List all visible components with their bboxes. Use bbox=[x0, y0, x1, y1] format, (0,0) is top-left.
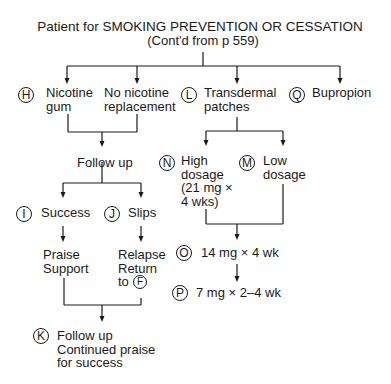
marker-l: L bbox=[181, 87, 197, 103]
node-high-dosage: High dosage (21 mg × 4 wks) bbox=[181, 154, 233, 208]
diagram-subtitle: (Cont'd from p 559) bbox=[0, 34, 391, 48]
diagram-title: Patient for SMOKING PREVENTION OR CESSAT… bbox=[0, 20, 391, 34]
node-7mg: 7 mg × 2–4 wk bbox=[196, 286, 281, 300]
node-transdermal-patches: Transdermal patches bbox=[204, 86, 276, 113]
marker-f: F bbox=[133, 275, 147, 289]
marker-o: O bbox=[176, 245, 192, 261]
marker-m: M bbox=[239, 155, 255, 171]
marker-i: I bbox=[16, 206, 32, 222]
node-no-nicotine-replacement: No nicotine replacement bbox=[104, 86, 176, 113]
marker-h: H bbox=[18, 87, 34, 103]
node-low-dosage: Low dosage bbox=[263, 154, 306, 181]
marker-p: P bbox=[172, 285, 188, 301]
node-slips: Slips bbox=[128, 206, 156, 220]
node-follow-up-continued: Follow up Continued praise for success bbox=[57, 329, 155, 370]
node-nicotine-gum: Nicotine gum bbox=[46, 86, 93, 113]
node-follow-up: Follow up bbox=[77, 156, 133, 170]
marker-n: N bbox=[159, 155, 175, 171]
marker-q: Q bbox=[289, 87, 305, 103]
node-14mg: 14 mg × 4 wk bbox=[201, 246, 279, 260]
marker-j: J bbox=[104, 206, 120, 222]
node-success: Success bbox=[41, 206, 90, 220]
node-praise-support: Praise Support bbox=[43, 248, 89, 275]
marker-k: K bbox=[33, 328, 49, 344]
node-bupropion: Bupropion bbox=[312, 86, 371, 100]
